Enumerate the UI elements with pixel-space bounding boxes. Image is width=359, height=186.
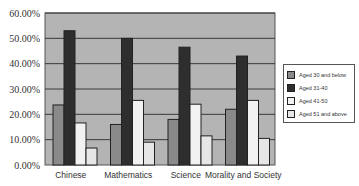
legend-label: Aged 30 and below bbox=[299, 72, 346, 78]
y-tick-label: 0.00% bbox=[14, 160, 40, 171]
x-tick-label: Science bbox=[171, 170, 202, 180]
y-tick-label: 60.00% bbox=[9, 8, 40, 19]
legend-item: Aged 31-40 bbox=[287, 81, 351, 94]
legend-item: Aged 30 and below bbox=[287, 68, 351, 81]
bar bbox=[179, 47, 190, 165]
bar bbox=[64, 31, 75, 165]
bar bbox=[248, 100, 259, 165]
y-tick-label: 50.00% bbox=[9, 33, 40, 44]
bar bbox=[86, 148, 97, 165]
bar bbox=[226, 109, 237, 165]
legend: Aged 30 and below Aged 31-40 Aged 41-50 … bbox=[283, 64, 355, 123]
legend-swatch-icon bbox=[287, 97, 295, 105]
legend-swatch-icon bbox=[287, 84, 295, 92]
bar bbox=[133, 100, 144, 165]
bar bbox=[144, 142, 155, 165]
y-axis-ticks: 0.00%10.00%20.00%30.00%40.00%50.00%60.00… bbox=[9, 8, 40, 171]
legend-label: Aged 31-40 bbox=[299, 85, 327, 91]
bar bbox=[168, 119, 179, 165]
y-tick-label: 40.00% bbox=[9, 58, 40, 69]
x-tick-label: Mathematics bbox=[104, 170, 152, 180]
x-tick-label: Morality and Society bbox=[205, 170, 282, 180]
legend-swatch-icon bbox=[287, 71, 295, 79]
legend-item: Aged 41-50 bbox=[287, 94, 351, 107]
bar bbox=[259, 138, 270, 165]
bar bbox=[122, 38, 133, 165]
bar bbox=[53, 105, 64, 165]
bar bbox=[111, 124, 122, 165]
bar bbox=[75, 123, 86, 165]
legend-swatch-icon bbox=[287, 110, 295, 118]
bar bbox=[237, 56, 248, 165]
x-axis-labels: ChineseMathematicsScienceMorality and So… bbox=[55, 170, 282, 180]
legend-label: Aged 51 and above bbox=[299, 111, 347, 117]
x-tick-label: Chinese bbox=[55, 170, 86, 180]
bar bbox=[190, 104, 201, 165]
legend-label: Aged 41-50 bbox=[299, 98, 327, 104]
y-tick-label: 20.00% bbox=[9, 109, 40, 120]
bar bbox=[201, 136, 212, 165]
y-tick-label: 10.00% bbox=[9, 134, 40, 145]
legend-item: Aged 51 and above bbox=[287, 107, 351, 120]
y-tick-label: 30.00% bbox=[9, 84, 40, 95]
